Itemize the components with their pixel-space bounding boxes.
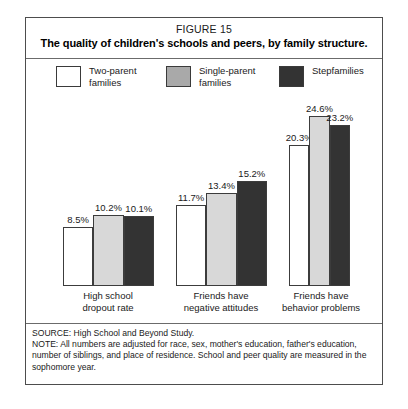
bar-1-0: 11.7%: [176, 106, 206, 286]
figure-title: The quality of children's schools and pe…: [26, 36, 382, 51]
divider-bottom: [26, 323, 382, 324]
legend-item-single-parent-families: Single-parent families: [166, 65, 256, 88]
category-label-2: Friends have behavior problems: [251, 290, 391, 314]
bar-1-2: 15.2%: [237, 106, 267, 286]
bar-chart-plot-area: 8.5%10.2%10.1% 11.7%13.4%15.2% 20.3%24.6…: [26, 106, 382, 286]
legend-label: Single-parent families: [199, 65, 256, 88]
bar-value-label: 10.1%: [125, 203, 152, 214]
bar-rect: [237, 181, 267, 286]
legend-swatch-icon-two-parent-families: [56, 66, 81, 87]
bar-value-label: 8.5%: [67, 214, 89, 225]
footnote-source: SOURCE: High School and Beyond Study.: [32, 328, 377, 339]
legend-label: Two-parent families: [89, 65, 137, 88]
bar-group-friends-have-behavior-problems: 20.3%24.6%23.2%: [289, 106, 350, 286]
bar-group-high-school-dropout-rate: 8.5%10.2%10.1%: [63, 106, 154, 286]
bars: 8.5%10.2%10.1%: [63, 106, 154, 286]
bar-0-1: 10.2%: [93, 106, 123, 286]
bar-rect: [124, 216, 154, 286]
bar-value-label: 10.2%: [95, 202, 122, 213]
figure-number: FIGURE 15: [26, 22, 382, 36]
figure-frame: FIGURE 15 The quality of children's scho…: [25, 17, 383, 385]
bar-2-0: 20.3%: [289, 106, 309, 286]
bars: 20.3%24.6%23.2%: [289, 106, 350, 286]
bar-rect: [289, 145, 309, 286]
legend-swatch-icon-stepfamilies: [279, 66, 304, 87]
title-block: FIGURE 15 The quality of children's scho…: [26, 18, 382, 58]
bar-value-label: 13.4%: [208, 180, 235, 191]
bar-rect: [176, 205, 206, 286]
legend-label: Stepfamilies: [312, 65, 364, 77]
bar-rect: [93, 215, 123, 286]
bar-1-1: 13.4%: [206, 106, 236, 286]
bar-value-label: 15.2%: [238, 168, 265, 179]
bar-rect: [330, 125, 350, 286]
legend-swatch-icon-single-parent-families: [166, 66, 191, 87]
legend-item-stepfamilies: Stepfamilies: [279, 65, 364, 87]
bar-rect: [63, 227, 93, 286]
bar-group-friends-have-negative-attitudes: 11.7%13.4%15.2%: [176, 106, 267, 286]
bar-2-2: 23.2%: [330, 106, 350, 286]
bar-0-2: 10.1%: [124, 106, 154, 286]
bars: 11.7%13.4%15.2%: [176, 106, 267, 286]
footnote-note: NOTE: All numbers are adjusted for race,…: [32, 339, 377, 373]
bar-2-1: 24.6%: [309, 106, 329, 286]
bar-0-0: 8.5%: [63, 106, 93, 286]
chart-legend: Two-parent families Single-parent famili…: [26, 65, 382, 101]
divider-top: [26, 58, 382, 59]
bar-rect: [206, 193, 236, 286]
footnote-block: SOURCE: High School and Beyond Study. NO…: [32, 328, 377, 373]
legend-item-two-parent-families: Two-parent families: [56, 65, 137, 88]
bar-value-label: 23.2%: [326, 112, 353, 123]
bar-rect: [309, 116, 329, 286]
bar-value-label: 11.7%: [178, 192, 204, 203]
